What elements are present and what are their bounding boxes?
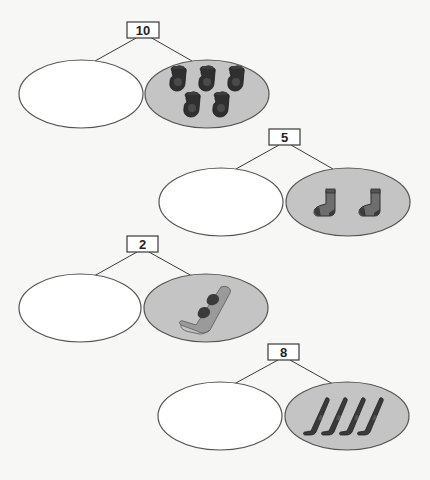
whole-number: 5 [281,130,288,145]
branch-line-left [236,145,279,169]
branch-line-left [94,252,137,276]
unknown-part-ellipse[interactable] [159,168,283,236]
branch-line-right [291,145,333,169]
number-bond-3: 2 [19,236,268,342]
branch-line-right [290,360,333,384]
whole-number: 2 [139,237,146,252]
mitten-icon [184,92,200,117]
whole-number: 10 [136,23,150,38]
number-bond-4: 8 [158,344,409,450]
mitten-icon [199,66,215,91]
number-bond-2: 5 [159,129,410,236]
whole-number: 8 [280,345,287,360]
unknown-part-ellipse[interactable] [158,382,282,450]
known-part-ellipse [286,168,410,236]
branch-line-right [149,252,192,276]
mitten-icon [170,66,186,91]
known-part-ellipse [285,382,409,450]
mitten-icon [228,66,244,91]
branch-line-left [95,37,138,61]
unknown-part-ellipse[interactable] [19,60,143,128]
branch-line-left [234,360,278,384]
mitten-icon [213,92,229,117]
branch-line-right [150,37,192,61]
number-bond-1: 10 [19,22,269,128]
unknown-part-ellipse[interactable] [19,274,141,342]
